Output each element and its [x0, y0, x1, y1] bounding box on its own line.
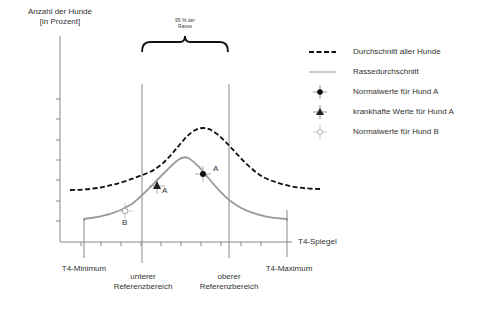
bracket-95-percent — [142, 36, 228, 52]
bracket-label: 95 % der Rasse — [160, 17, 210, 29]
upper-reference-label: oberer Referenzbereich — [198, 272, 260, 292]
y-ticks — [56, 99, 60, 221]
dog-a-circle-label: A — [213, 164, 218, 174]
dog-a-triangle-label: A — [162, 186, 167, 196]
y-axis-label-line1: Anzahl der Hunde — [22, 7, 98, 17]
dog-b-label: B — [122, 218, 127, 228]
y-axis-label-line2: [in Prozent] — [22, 17, 98, 27]
bracket-label-line2: Rasse — [160, 23, 210, 29]
x-ticks — [81, 242, 261, 246]
lower-reference-label: unterer Referenzbereich — [112, 272, 174, 292]
t4-minimum-label: T4-Minimum — [52, 264, 116, 274]
x-axis-label: T4-Spiegel — [298, 237, 337, 247]
legend-item-dog-b-normal: Normalwerte für Hund B — [353, 127, 439, 136]
legend-filled-circle-icon — [313, 85, 327, 99]
legend-filled-triangle-icon — [313, 105, 327, 119]
breed-average-curve — [84, 157, 287, 221]
y-axis-label: Anzahl der Hunde [in Prozent] — [22, 7, 98, 27]
upper-reference-label-line1: oberer — [198, 272, 260, 282]
legend-item-breed-average: Rassedurchschnitt — [353, 67, 419, 76]
lower-reference-label-line1: unterer — [112, 272, 174, 282]
legend-item-dog-a-normal: Normalwerte für Hund A — [353, 87, 438, 96]
legend-item-all-dogs-average: Durchschnitt aller Hunde — [353, 47, 441, 56]
upper-reference-label-line2: Referenzbereich — [198, 282, 260, 292]
lower-reference-label-line2: Referenzbereich — [112, 282, 174, 292]
legend-item-dog-a-pathological: krankhafte Werte für Hund A — [353, 107, 454, 116]
t4-maximum-label: T4-Maximum — [257, 264, 321, 274]
legend-open-circle-icon — [313, 125, 327, 139]
all-dogs-average-curve — [70, 128, 322, 190]
